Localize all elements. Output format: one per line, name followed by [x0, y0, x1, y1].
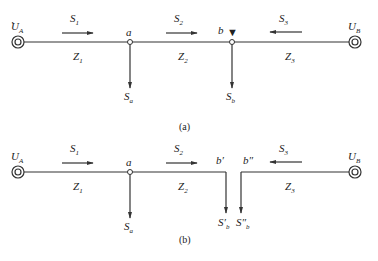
flow-s1-label: S1 — [70, 142, 79, 157]
caption-b: (b) — [179, 234, 191, 246]
flow-s1-label: S1 — [70, 12, 79, 27]
node-a-label: a — [126, 26, 132, 38]
impedance-z3-label: Z3 — [285, 180, 295, 195]
source-a-icon — [12, 36, 24, 48]
diagram-b: UA UB S1 Z1 a Sa S2 Z2 b′ b″ S3 Z3 — [11, 142, 361, 246]
impedance-z1-label: Z1 — [73, 180, 83, 195]
node-b-icon — [230, 40, 235, 45]
source-b-label: UB — [348, 150, 361, 165]
flow-s3-label: S3 — [279, 12, 289, 27]
load-sb-prime-label: S′b — [218, 216, 230, 231]
node-b-prime-label: b′ — [216, 154, 225, 166]
load-sa-label: Sa — [124, 90, 134, 105]
source-b-icon — [349, 36, 361, 48]
caption-a: (a) — [179, 121, 190, 133]
source-a-label: UA — [11, 150, 24, 165]
load-sa-label: Sa — [124, 220, 134, 235]
flow-s3-label: S3 — [279, 142, 289, 157]
impedance-z2-label: Z2 — [178, 180, 188, 195]
node-a-label: a — [126, 156, 132, 168]
diagram-a: · UA UB S1 Z1 a Sa S2 Z2 b ▼ Sb S3 — [11, 12, 361, 133]
flow-s2-label: S2 — [174, 12, 184, 27]
source-b-icon — [349, 166, 361, 178]
network-diagram: · UA UB S1 Z1 a Sa S2 Z2 b ▼ Sb S3 — [0, 0, 378, 261]
breakpoint-marker-icon: ▼ — [227, 26, 238, 38]
source-b-label: UB — [348, 20, 361, 35]
node-a-icon — [128, 170, 133, 175]
impedance-z3-label: Z3 — [285, 50, 295, 65]
load-sb-dprime-label: S″b — [236, 216, 250, 231]
node-b-label: b — [218, 24, 224, 36]
load-sb-label: Sb — [226, 90, 236, 105]
source-a-icon — [12, 166, 24, 178]
source-a-label: UA — [11, 20, 24, 35]
impedance-z2-label: Z2 — [178, 50, 188, 65]
node-b-dprime-label: b″ — [243, 154, 254, 166]
impedance-z1-label: Z1 — [73, 50, 83, 65]
node-a-icon — [128, 40, 133, 45]
flow-s2-label: S2 — [174, 142, 184, 157]
